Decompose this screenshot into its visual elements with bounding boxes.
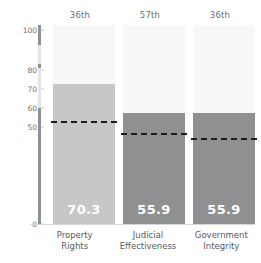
category-label-government-integrity: Government Integrity: [185, 230, 258, 251]
y-tick-label-100: 100: [23, 26, 37, 35]
axis-spine-gap-70-50: [38, 68, 41, 108]
axis-spine-segment-top: [38, 25, 41, 45]
reference-line-government-integrity: [191, 138, 257, 140]
category-label-property-rights: Property Rights: [38, 230, 111, 251]
plot-area: 70.3 55.9 55.9: [45, 25, 255, 224]
category-label-line-2: Rights: [38, 241, 111, 252]
bar-value-property-rights: 70.3: [53, 202, 115, 217]
rank-label-row: 36th 57th 36th: [45, 8, 255, 22]
category-label-line-2: Effectiveness: [111, 241, 184, 252]
bar-judicial-effectiveness: 55.9: [123, 113, 185, 224]
rank-label-property-rights: 36th: [45, 8, 115, 22]
axis-spine-segment-bottom: [38, 108, 41, 224]
bar-property-rights: 70.3: [53, 84, 115, 224]
bar-value-government-integrity: 55.9: [193, 202, 255, 217]
axis-spine-gap-80-70: [38, 45, 41, 64]
x-axis-baseline: [30, 224, 255, 225]
y-tick-label-80: 80: [27, 66, 37, 75]
y-tick-label-70: 70: [27, 85, 37, 94]
y-tick-label-50: 50: [27, 123, 37, 132]
category-label-line-1: Judicial: [111, 230, 184, 241]
bar-value-judicial-effectiveness: 55.9: [123, 202, 185, 217]
y-tick-label-60: 60: [27, 104, 37, 113]
rank-label-government-integrity: 36th: [185, 8, 255, 22]
category-label-line-2: Integrity: [185, 241, 258, 252]
category-label-row: Property Rights Judicial Effectiveness G…: [38, 230, 258, 251]
reference-line-property-rights: [51, 121, 117, 123]
rank-label-judicial-effectiveness: 57th: [115, 8, 185, 22]
bar-chart: 36th 57th 36th 100 80 70 60 50 0 70.3: [0, 0, 261, 263]
category-label-line-1: Property: [38, 230, 111, 241]
bar-government-integrity: 55.9: [193, 113, 255, 224]
reference-line-judicial-effectiveness: [121, 133, 187, 135]
category-label-line-1: Government: [185, 230, 258, 241]
category-label-judicial-effectiveness: Judicial Effectiveness: [111, 230, 184, 251]
